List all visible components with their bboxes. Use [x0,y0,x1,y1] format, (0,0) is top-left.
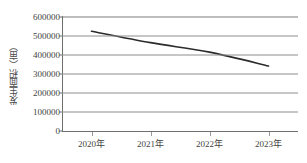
y-axis-tick-label: 100000 [16,107,60,117]
x-axis-tick-mark [210,132,211,136]
x-axis-tick-label: 2022年 [196,137,223,150]
y-axis-tick-label: 500000 [16,31,60,41]
plot-area [62,17,298,131]
x-axis-tick-label: 2020年 [78,137,105,150]
gridline [62,36,298,37]
y-axis-tick-label: 600000 [16,12,60,22]
y-axis-tick-label: 200000 [16,88,60,98]
x-axis-tick-mark [269,132,270,136]
x-axis-tick-label: 2023年 [255,137,282,150]
x-axis-tick-label: 2021年 [137,137,164,150]
y-axis-tick-label: 300000 [16,69,60,79]
gridline [62,93,298,94]
gridline [62,112,298,113]
gridline [62,74,298,75]
x-axis-tick-mark [151,132,152,136]
line-chart: 发生面积（亩） 01000002000003000004000005000006… [0,0,307,163]
gridline [62,17,298,18]
x-axis-tick-mark [92,132,93,136]
y-axis-tick-label: 0 [16,126,60,136]
y-axis-tick-label: 400000 [16,50,60,60]
y-axis-tick-label-group: 0100000200000300000400000500000600000 [14,0,60,163]
x-axis-tick-label-group: 2020年2021年2022年2023年 [62,137,302,157]
gridline [62,55,298,56]
